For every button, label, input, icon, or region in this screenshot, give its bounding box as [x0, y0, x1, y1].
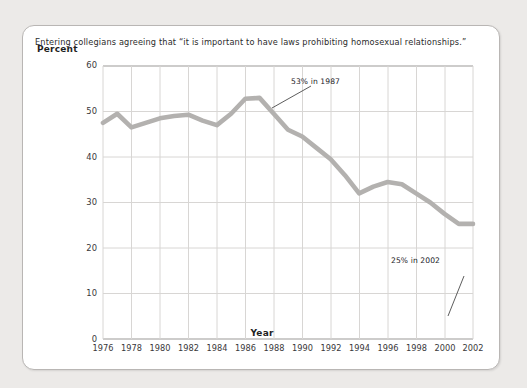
y-tick-30: 30	[71, 197, 97, 207]
annotation-leader-lines	[272, 86, 464, 316]
x-tick-1984: 1984	[204, 343, 230, 353]
x-tick-1978: 1978	[119, 343, 145, 353]
chart-card: Entering collegians agreeing that “it is…	[22, 25, 500, 370]
x-tick-1976: 1976	[90, 343, 116, 353]
y-tick-0: 0	[71, 334, 97, 344]
x-tick-1982: 1982	[176, 343, 202, 353]
x-tick-1980: 1980	[147, 343, 173, 353]
x-tick-2000: 2000	[432, 343, 458, 353]
data-series-line	[103, 98, 473, 224]
y-tick-10: 10	[71, 288, 97, 298]
x-tick-1990: 1990	[290, 343, 316, 353]
y-tick-40: 40	[71, 152, 97, 162]
x-tick-1994: 1994	[347, 343, 373, 353]
x-tick-1988: 1988	[261, 343, 287, 353]
x-tick-1996: 1996	[375, 343, 401, 353]
annotation-end: 25% in 2002	[391, 256, 440, 265]
x-tick-2002: 2002	[460, 343, 486, 353]
x-tick-1998: 1998	[404, 343, 430, 353]
gridlines	[103, 66, 473, 339]
y-axis-title: Percent	[37, 44, 78, 54]
annotation-peak: 53% in 1987	[291, 77, 340, 86]
x-tick-1986: 1986	[233, 343, 259, 353]
y-tick-20: 20	[71, 243, 97, 253]
y-tick-60: 60	[71, 60, 97, 70]
plot-area: Percent Year 60 50 40 30 20 10 0 1976 19…	[23, 26, 501, 371]
y-tick-50: 50	[71, 106, 97, 116]
x-tick-1992: 1992	[318, 343, 344, 353]
